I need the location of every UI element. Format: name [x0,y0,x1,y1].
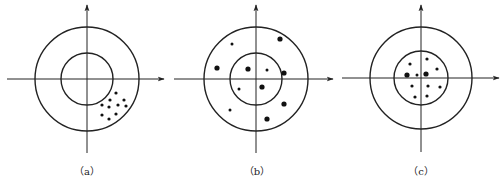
shot-dot [107,105,110,108]
shot-dot [413,95,416,98]
shot-dot [423,71,428,76]
shot-dot [245,66,250,71]
panel-label: （b） [244,166,270,177]
shot-dot [231,43,234,46]
shot-dot [425,94,428,97]
panel-a: （a） [7,5,164,177]
shot-dot [281,101,286,106]
panel-label: （c） [408,166,434,177]
shot-dot [435,67,438,70]
shot-dot [114,91,117,94]
shot-dot [238,88,241,91]
shot-dot [416,74,419,77]
target-diagrams: （a） （b） （c） [0,0,500,185]
shot-dot [214,65,219,70]
shot-dot [122,98,125,101]
shot-dot [108,98,111,101]
panel-c: （c） [342,5,499,177]
shot-dot [100,113,103,116]
shot-dot [107,117,110,120]
shot-dot [114,112,117,115]
shot-dot [229,109,232,112]
shot-dot [277,36,282,41]
shot-dot [266,69,269,72]
shot-dot [259,84,264,89]
shot-dot [408,62,411,65]
shot-dot [426,84,429,87]
shot-dot [281,70,286,75]
shot-dot [124,104,127,107]
panel-b: （b） [174,5,333,177]
panel-label: （a） [74,166,100,177]
shot-dot [404,72,409,77]
shot-dot [100,103,103,106]
shot-dot [438,85,441,88]
shot-dot [425,57,428,60]
shot-dot [264,116,269,121]
shot-dot [116,103,119,106]
shot-dot [410,84,413,87]
